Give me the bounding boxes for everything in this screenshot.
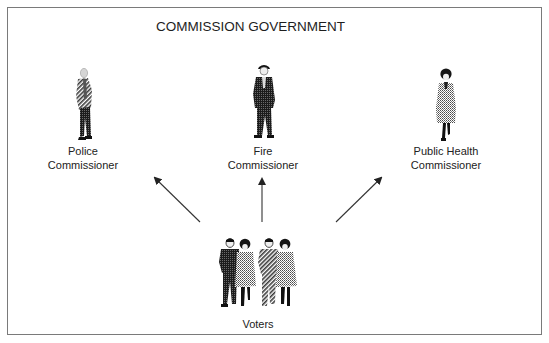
group-of-people-icon [218,238,300,310]
arrow-to-health [336,178,381,222]
voters-label: Voters [218,317,298,331]
arrow-to-police [155,178,200,222]
